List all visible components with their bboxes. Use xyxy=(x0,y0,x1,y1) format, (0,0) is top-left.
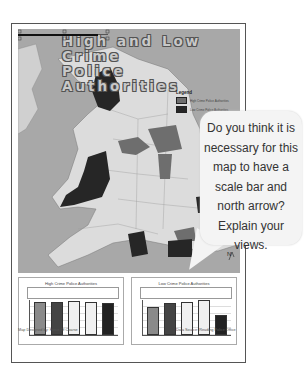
chart-high-crime: High Crime Police Authorities xyxy=(18,277,124,345)
chart-bar xyxy=(102,303,114,335)
chart-legend xyxy=(27,287,119,299)
speech-bubble-text: Do you think it is necessary for this ma… xyxy=(200,119,302,256)
chart-low-crime: Low Crime Police Authorities xyxy=(131,277,237,345)
map-title: High and Low Crime Police Authorities xyxy=(62,34,232,94)
chart-title: Low Crime Police Authorities xyxy=(132,281,236,286)
chart-bar xyxy=(85,302,97,335)
chart-legend xyxy=(140,287,232,299)
scale-bar xyxy=(18,29,110,41)
chart-bar xyxy=(215,315,227,335)
legend-swatch-low xyxy=(176,106,187,113)
chart-title: High Crime Police Authorities xyxy=(19,281,123,286)
charts-panel: High Crime Police Authorities Low Crime … xyxy=(18,277,240,345)
legend-label-high: High Crime Police Authorities xyxy=(190,99,229,103)
designer-credit: Map Designed by: Force Of Coarse xyxy=(18,328,78,332)
legend-heading: Legend xyxy=(176,90,240,95)
legend-swatch-high xyxy=(176,97,187,104)
chart-bar xyxy=(147,307,159,335)
chart-bar xyxy=(164,303,176,335)
speech-bubble: Do you think it is necessary for this ma… xyxy=(200,111,302,245)
legend-item-high: High Crime Police Authorities xyxy=(176,97,240,104)
data-source-credit: Data Source: Reading Police Office xyxy=(176,328,236,332)
